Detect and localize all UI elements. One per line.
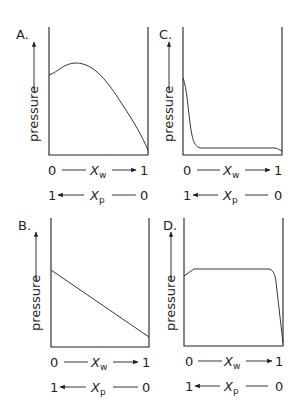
x-axis-labels: 0 Xw 1 1 Xp 0 — [50, 355, 150, 397]
xw-variable: Xw — [90, 355, 107, 372]
y-axis-label: pressure — [28, 275, 43, 331]
panel-d: D. pressure 0 Xw 1 1 Xp 0 — [163, 218, 283, 396]
plot-frame — [51, 218, 149, 347]
xp-start: 1 — [185, 379, 193, 394]
xp-end: 0 — [142, 380, 150, 395]
y-axis-label: pressure — [161, 86, 176, 142]
plot-frame — [184, 218, 283, 346]
panel-a: A. pressure 0 Xw 1 1 Xp 0 — [16, 27, 148, 205]
pressure-curve — [183, 78, 282, 151]
xw-end: 1 — [140, 163, 148, 178]
xw-variable: Xw — [222, 163, 239, 180]
panel-label: B. — [18, 218, 31, 233]
xp-end: 0 — [274, 188, 282, 203]
x-axis-labels: 0 Xw 1 1 Xp 0 — [185, 354, 283, 396]
pressure-curve — [51, 270, 149, 337]
xp-start: 1 — [48, 188, 56, 203]
xw-end: 1 — [142, 355, 150, 370]
xp-variable: Xp — [223, 379, 239, 396]
phase-diagram-figure: A. pressure 0 Xw 1 1 Xp 0 C. pressure 0 … — [0, 0, 298, 406]
x-axis-labels: 0 Xw 1 1 Xp 0 — [48, 163, 148, 205]
xp-start: 1 — [183, 188, 191, 203]
xp-start: 1 — [50, 380, 58, 395]
panel-b: B. pressure 0 Xw 1 1 Xp 0 — [18, 218, 150, 397]
pressure-curve — [49, 63, 148, 150]
xw-start: 0 — [183, 163, 191, 178]
xp-end: 0 — [140, 188, 148, 203]
pressure-curve — [184, 269, 283, 343]
xp-variable: Xp — [89, 188, 105, 205]
y-axis-label: pressure — [163, 275, 178, 331]
plot-frame — [183, 27, 282, 155]
xw-end: 1 — [275, 354, 283, 369]
panel-label: A. — [16, 27, 29, 42]
panel-label: C. — [159, 27, 172, 42]
xw-variable: Xw — [89, 163, 106, 180]
xw-start: 0 — [48, 163, 56, 178]
panel-c: C. pressure 0 Xw 1 1 Xp 0 — [159, 27, 282, 205]
x-axis-labels: 0 Xw 1 1 Xp 0 — [183, 163, 282, 205]
xw-start: 0 — [185, 354, 193, 369]
xp-variable: Xp — [222, 188, 238, 205]
panel-label: D. — [163, 218, 177, 233]
y-axis-label: pressure — [26, 86, 41, 142]
xp-variable: Xp — [90, 380, 106, 397]
xw-variable: Xw — [223, 354, 240, 371]
plot-frame — [49, 27, 148, 155]
xp-end: 0 — [275, 379, 283, 394]
xw-end: 1 — [274, 163, 282, 178]
xw-start: 0 — [50, 355, 58, 370]
